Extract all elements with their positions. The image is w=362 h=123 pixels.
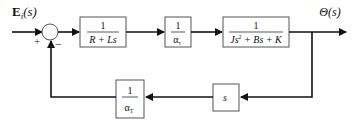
plus-sign: + bbox=[34, 35, 40, 47]
svg-text:1: 1 bbox=[128, 85, 133, 96]
torque-constant-block: 1 ατ bbox=[165, 17, 191, 47]
svg-text:Js2 + Bs + K: Js2 + Bs + K bbox=[230, 34, 283, 45]
differentiator-block: s bbox=[213, 84, 239, 111]
back-emf-constant-block: 1 αT bbox=[116, 80, 144, 118]
block-diagram: Ei(s) + − 1 R + Ls 1 ατ 1 Js2 + Bs + K Θ… bbox=[0, 0, 362, 123]
svg-text:1: 1 bbox=[101, 20, 106, 31]
mechanical-block: 1 Js2 + Bs + K bbox=[223, 17, 289, 47]
electrical-block: 1 R + Ls bbox=[80, 17, 126, 47]
input-label: Ei(s) bbox=[12, 4, 37, 21]
svg-text:R + Ls: R + Ls bbox=[88, 34, 116, 45]
svg-text:1: 1 bbox=[254, 20, 259, 31]
svg-text:s: s bbox=[223, 92, 227, 103]
minus-sign: − bbox=[55, 37, 62, 51]
output-label: Θ(s) bbox=[319, 5, 340, 19]
svg-text:1: 1 bbox=[176, 20, 181, 31]
